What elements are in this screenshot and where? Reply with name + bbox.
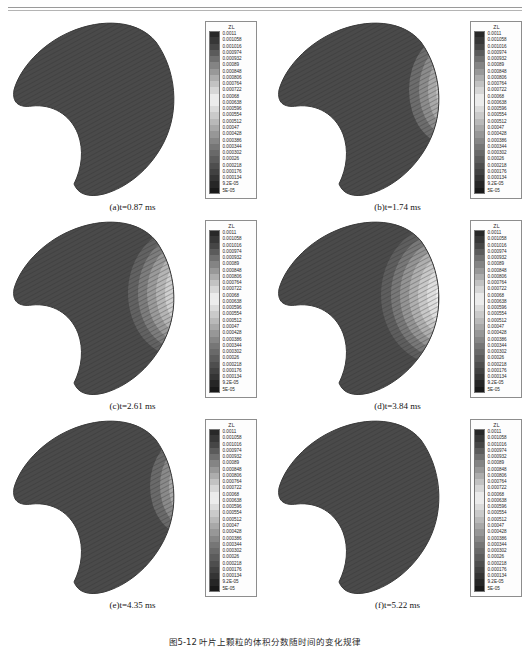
colorbar-title-b: ZL [474,24,519,31]
colorbar-swatch [474,188,485,194]
figure-row-3: ZL 0.00110.0010580.0010160.0009740.00093… [0,414,530,613]
panel-f-body: ZL 0.00110.0010580.0010160.0009740.00093… [265,414,530,599]
panel-c-body: ZL 0.00110.0010580.0010160.0009740.00093… [0,215,265,400]
colorbar-legend-e: ZL 0.00110.0010580.0010160.0009740.00093… [205,419,257,597]
colorbar-title-c: ZL [209,223,254,230]
colorbar-swatch [209,586,220,592]
colorbar-legend-d: ZL 0.00110.0010580.0010160.0009740.00093… [470,220,522,398]
colorbar-tick-row: 5E-05 [209,387,254,393]
colorbar-scale-c: 0.00110.0010580.0010160.0009740.0009320.… [209,230,254,393]
panel-caption-e: (e)t=4.35 ms [0,599,265,613]
colorbar-tick-label: 5E-05 [485,586,500,592]
panel-a-body: ZL 0.00110.0010580.0010160.0009740.00093… [0,16,265,201]
colorbar-legend-a: ZL 0.00110.0010580.0010160.0009740.00093… [205,21,257,199]
contour-plot-e-svg [8,416,198,598]
contour-plot-f-svg [273,416,463,598]
panel-caption-d: (d)t=3.84 ms [265,400,530,414]
contour-bands-d [273,217,463,399]
colorbar-tick-label: 5E-05 [485,188,500,194]
colorbar-tick-row: 5E-05 [209,586,254,592]
colorbar-scale-e: 0.00110.0010580.0010160.0009740.0009320.… [209,429,254,592]
colorbar-swatch [209,387,220,393]
panel-d: ZL 0.00110.0010580.0010160.0009740.00093… [265,215,530,414]
figure-row-1: ZL 0.00110.0010580.0010160.0009740.00093… [0,16,530,215]
panel-d-body: ZL 0.00110.0010580.0010160.0009740.00093… [265,215,530,400]
contour-plot-a [8,18,198,200]
figure-caption: 图5-12 叶片上颗粒的体积分数随时间的变化规律 [0,637,530,654]
panel-b: ZL 0.00110.0010580.0010160.0009740.00093… [265,16,530,215]
contour-plot-c-svg [8,217,198,399]
page-header-rules [8,7,522,13]
colorbar-tick-row: 5E-05 [474,188,519,194]
contour-bands-f [273,416,463,598]
contour-bands-a [8,18,198,200]
panel-e-body: ZL 0.00110.0010580.0010160.0009740.00093… [0,414,265,599]
colorbar-tick-label: 5E-05 [220,188,235,194]
panel-caption-b: (b)t=1.74 ms [265,201,530,215]
colorbar-tick-row: 5E-05 [474,586,519,592]
contour-plot-c [8,217,198,399]
contour-plot-e [8,416,198,598]
contour-bands-e [8,416,198,598]
panel-b-body: ZL 0.00110.0010580.0010160.0009740.00093… [265,16,530,201]
contour-bands-b [273,18,463,200]
panel-a: ZL 0.00110.0010580.0010160.0009740.00093… [0,16,265,215]
panel-caption-f: (f)t=5.22 ms [265,599,530,613]
contour-bands-c [8,217,198,399]
contour-plot-f [273,416,463,598]
colorbar-swatch [474,586,485,592]
colorbar-tick-row: 5E-05 [474,387,519,393]
panel-caption-a: (a)t=0.87 ms [0,201,265,215]
colorbar-scale-b: 0.00110.0010580.0010160.0009740.0009320.… [474,31,519,194]
colorbar-title-f: ZL [474,422,519,429]
colorbar-title-a: ZL [209,24,254,31]
panel-c: ZL 0.00110.0010580.0010160.0009740.00093… [0,215,265,414]
colorbar-scale-a: 0.00110.0010580.0010160.0009740.0009320.… [209,31,254,194]
contour-plot-d [273,217,463,399]
panel-f: ZL 0.00110.0010580.0010160.0009740.00093… [265,414,530,613]
contour-plot-d-svg [273,217,463,399]
colorbar-legend-c: ZL 0.00110.0010580.0010160.0009740.00093… [205,220,257,398]
colorbar-tick-label: 5E-05 [220,586,235,592]
colorbar-tick-row: 5E-05 [209,188,254,194]
colorbar-scale-f: 0.00110.0010580.0010160.0009740.0009320.… [474,429,519,592]
panel-caption-c: (c)t=2.61 ms [0,400,265,414]
header-rule-top [8,7,522,8]
colorbar-title-e: ZL [209,422,254,429]
colorbar-scale-d: 0.00110.0010580.0010160.0009740.0009320.… [474,230,519,393]
colorbar-legend-f: ZL 0.00110.0010580.0010160.0009740.00093… [470,419,522,597]
figure-row-2: ZL 0.00110.0010580.0010160.0009740.00093… [0,215,530,414]
colorbar-legend-b: ZL 0.00110.0010580.0010160.0009740.00093… [470,21,522,199]
colorbar-tick-label: 5E-05 [485,387,500,393]
colorbar-swatch [209,188,220,194]
contour-figure: ZL 0.00110.0010580.0010160.0009740.00093… [0,16,530,613]
panel-e: ZL 0.00110.0010580.0010160.0009740.00093… [0,414,265,613]
contour-plot-b [273,18,463,200]
colorbar-tick-label: 5E-05 [220,387,235,393]
colorbar-swatch [474,387,485,393]
colorbar-title-d: ZL [474,223,519,230]
header-rule-bottom [8,10,522,11]
contour-plot-a-svg [8,18,198,200]
contour-plot-b-svg [273,18,463,200]
